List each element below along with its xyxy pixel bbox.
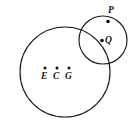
point-label-P: P xyxy=(108,6,114,16)
point-dot-G xyxy=(68,67,71,70)
geometry-figure: P Q E C G xyxy=(0,0,134,135)
point-label-Q: Q xyxy=(105,36,112,46)
point-label-G: G xyxy=(65,72,72,82)
point-dot-Q xyxy=(100,39,104,43)
point-dot-C xyxy=(56,67,59,70)
point-dot-E xyxy=(44,67,47,70)
point-label-E: E xyxy=(41,72,47,82)
figure-canvas xyxy=(0,0,134,135)
point-dot-P xyxy=(106,20,110,24)
point-label-C: C xyxy=(53,72,59,82)
